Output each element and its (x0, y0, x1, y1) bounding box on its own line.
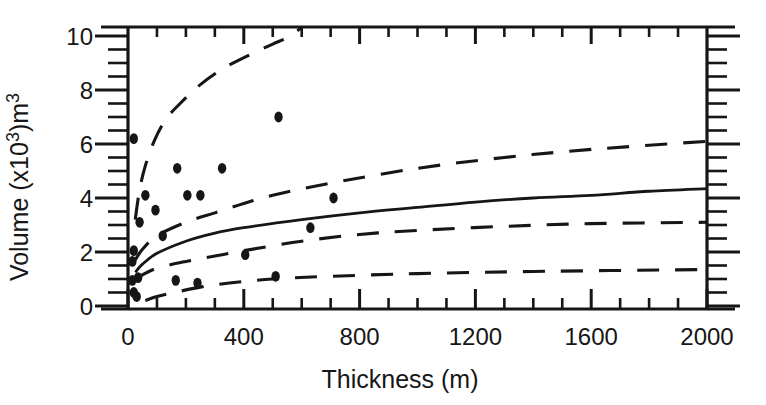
data-point (159, 230, 167, 241)
data-point (196, 190, 204, 201)
y-tick-label: 0 (80, 293, 93, 320)
axis-labels: Thickness (m) Volume (x103)m3 0246810040… (3, 23, 734, 394)
lower-prediction-band-curve (145, 270, 707, 301)
y-tick-label: 4 (80, 185, 93, 212)
data-point (128, 275, 136, 286)
data-point (128, 256, 136, 267)
x-tick-label: 1600 (565, 323, 618, 350)
upper-confidence-band-curve (135, 141, 707, 260)
data-point (274, 112, 282, 123)
axis-ticks (95, 27, 740, 309)
data-point (151, 205, 159, 216)
data-point (132, 291, 140, 302)
data-point (271, 271, 279, 282)
plot-frame (101, 27, 735, 309)
data-point (241, 249, 249, 260)
data-point (173, 163, 181, 174)
y-tick-label: 2 (80, 239, 93, 266)
x-axis-title: Thickness (m) (322, 365, 479, 393)
y-tick-label: 6 (80, 131, 93, 158)
chart-canvas: Thickness (m) Volume (x103)m3 0246810040… (0, 0, 766, 405)
data-point (183, 190, 191, 201)
x-tick-label: 2000 (680, 323, 733, 350)
y-tick-label: 10 (66, 23, 93, 50)
data-point (218, 163, 226, 174)
data-point (193, 278, 201, 289)
x-tick-label: 400 (224, 323, 264, 350)
data-point (141, 190, 149, 201)
x-tick-label: 0 (121, 323, 134, 350)
y-tick-label: 8 (80, 77, 93, 104)
data-point (130, 245, 138, 256)
x-tick-label: 1200 (449, 323, 502, 350)
y-axis-title: Volume (x103)m3 (3, 93, 33, 281)
x-tick-label: 800 (340, 323, 380, 350)
data-point (306, 222, 314, 233)
data-point (135, 217, 143, 228)
data-point (130, 133, 138, 144)
data-point (172, 275, 180, 286)
curves (135, 24, 707, 301)
regression-fit-curve (135, 189, 707, 273)
data-point (329, 193, 337, 204)
scatter-plot-figure: Thickness (m) Volume (x103)m3 0246810040… (0, 0, 766, 405)
